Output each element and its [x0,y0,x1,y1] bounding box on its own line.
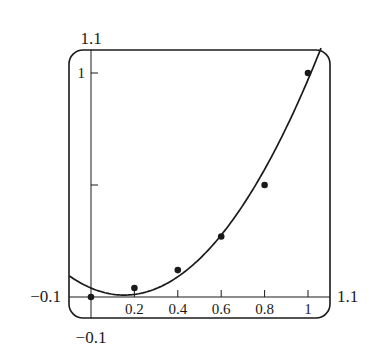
x-tick-label: 0.2 [125,301,144,317]
x-tick-label: 0.8 [255,301,274,317]
x-max-label: 1.1 [337,287,358,306]
data-point [88,294,95,301]
axes [69,50,330,318]
x-tick-label: 1 [304,301,312,317]
data-point [131,285,138,292]
y-max-label: 1.1 [80,29,101,48]
x-tick-label: 0.6 [212,301,231,317]
data-points [88,70,312,301]
data-point [218,233,225,240]
y-tick-label: 1 [78,65,86,81]
tick-marks [91,73,308,297]
data-point [305,70,312,77]
quadratic-fit-curve [69,48,321,295]
x-min-label: −0.1 [76,328,107,347]
scatter-plot-with-fit: 0.20.40.60.8111.1−0.1−0.11.1 [0,0,375,361]
data-point [261,182,268,189]
plot-frame [69,50,330,318]
y-min-label: −0.1 [30,287,61,306]
x-tick-label: 0.4 [168,301,187,317]
data-point [175,267,182,274]
fit-curve [69,48,321,295]
